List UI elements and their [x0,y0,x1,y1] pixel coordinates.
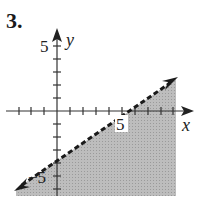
y-tick-label-5: 5 [40,37,49,56]
y-axis-label: y [64,30,74,50]
inequality-graph: 5 y 5 x −5 [0,0,199,206]
x-axis-label: x [181,115,190,135]
x-tick-label-5: 5 [116,115,125,134]
y-tick-label-neg5: −5 [28,168,46,187]
